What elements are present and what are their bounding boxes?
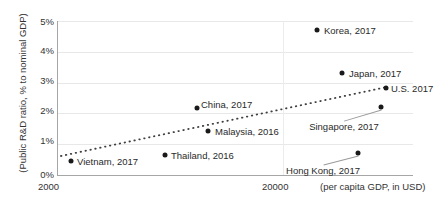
y-axis-tick-0: 5%: [22, 17, 54, 27]
gridline-20000: [283, 21, 284, 175]
leader-line-hong-kong: [323, 156, 358, 166]
data-point-thailand[interactable]: [163, 153, 168, 158]
x-axis-title: (per capita GDP, in USD): [320, 181, 425, 192]
data-point-china[interactable]: [195, 106, 200, 111]
gridline-3%: [58, 83, 413, 84]
gridline-4%: [58, 52, 413, 53]
x-axis-tick-1: 20000: [262, 181, 288, 192]
data-point-hong-kong[interactable]: [356, 151, 361, 156]
data-label-u-s-2017: U.S. 2017: [391, 83, 433, 94]
y-axis-tick-1: 4%: [22, 46, 54, 56]
gridline-5%: [58, 21, 413, 22]
data-label-singapore: Singapore, 2017: [309, 121, 379, 132]
data-label-korea: Korea, 2017: [324, 25, 376, 36]
data-point-korea[interactable]: [315, 28, 320, 33]
plot-area: Vietnam, 2017Thailand, 2016China, 2017Ma…: [57, 21, 413, 176]
data-label-vietnam: Vietnam, 2017: [77, 156, 138, 167]
y-axis-tick-3: 2%: [22, 106, 54, 116]
data-label-malaysia: Malaysia, 2016: [215, 126, 279, 137]
y-axis-tick-5: 0%: [22, 170, 54, 180]
data-label-japan: Japan, 2017: [349, 68, 401, 79]
data-point-japan[interactable]: [340, 71, 345, 76]
y-axis-tick-2: 3%: [22, 76, 54, 86]
data-label-hong-kong: Hong Kong, 2017: [286, 165, 360, 176]
y-axis-tick-4: 1%: [22, 136, 54, 146]
data-point-u-s-2017[interactable]: [384, 86, 389, 91]
scatter-chart: (Public R&D ratio, % to nominal GDP) 5%4…: [0, 0, 448, 212]
leader-line-singapore: [344, 110, 381, 122]
data-label-china: China, 2017: [201, 99, 252, 110]
data-point-singapore[interactable]: [379, 105, 384, 110]
data-label-thailand: Thailand, 2016: [171, 150, 234, 161]
x-axis-tick-0: 2000: [38, 181, 59, 192]
data-point-malaysia[interactable]: [206, 129, 211, 134]
data-point-vietnam[interactable]: [69, 159, 74, 164]
gridline-1%: [58, 144, 413, 145]
gridline-2%: [58, 113, 413, 114]
